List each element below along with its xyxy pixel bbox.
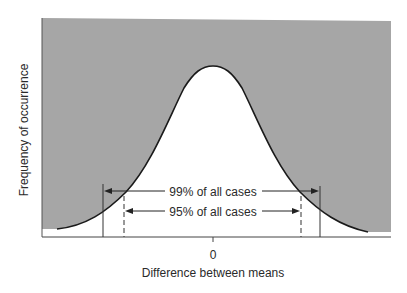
shaded-region [42,18,391,232]
arrowhead-left-icon [125,208,133,214]
y-axis-label: Frequency of occurrence [17,63,31,196]
x-tick-label-zero: 0 [210,248,217,262]
ci95-label: 95% of all cases [169,205,256,219]
arrowhead-right-icon [292,208,300,214]
normal-distribution-chart: 99% of all cases 95% of all cases 0 Diff… [0,0,407,293]
x-axis-label: Difference between means [142,266,285,280]
ci99-label: 99% of all cases [169,185,256,199]
